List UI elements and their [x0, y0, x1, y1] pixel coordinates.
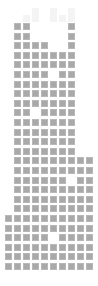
grid-tile [32, 177, 39, 184]
grid-tile [50, 253, 57, 260]
faint-tile [50, 8, 57, 15]
grid-tile [41, 157, 48, 164]
grid-tile [41, 225, 48, 232]
grid-tile [32, 71, 39, 78]
faint-tile [68, 15, 75, 22]
grid-tile [14, 90, 21, 97]
grid-tile [32, 234, 39, 241]
grid-tile [14, 177, 21, 184]
grid-tile [68, 148, 75, 155]
grid-tile [50, 81, 57, 88]
grid-tile [77, 167, 84, 174]
grid-tile [50, 52, 57, 59]
grid-tile [14, 186, 21, 193]
grid-tile [59, 244, 66, 251]
grid-tile [41, 90, 48, 97]
grid-tile [23, 244, 30, 251]
grid-tile [50, 61, 57, 68]
grid-tile [77, 196, 84, 203]
grid-tile [41, 234, 48, 241]
grid-tile [32, 215, 39, 222]
grid-tile [32, 119, 39, 126]
grid-tile [32, 225, 39, 232]
grid-tile [50, 109, 57, 116]
grid-tile [59, 119, 66, 126]
grid-tile [68, 186, 75, 193]
grid-tile [59, 263, 66, 270]
grid-tile [14, 119, 21, 126]
grid-tile [50, 215, 57, 222]
grid-tile [23, 148, 30, 155]
grid-tile [86, 244, 93, 251]
grid-tile [14, 234, 21, 241]
grid-tile [77, 234, 84, 241]
grid-tile [32, 81, 39, 88]
grid-tile [14, 109, 21, 116]
grid-tile [86, 263, 93, 270]
faint-tile [32, 8, 39, 15]
faint-tile [59, 15, 66, 22]
grid-tile [14, 61, 21, 68]
grid-tile [23, 157, 30, 164]
grid-tile [68, 109, 75, 116]
grid-tile [68, 234, 75, 241]
grid-tile [86, 253, 93, 260]
grid-tile [59, 177, 66, 184]
grid-tile [5, 244, 12, 251]
grid-tile [68, 71, 75, 78]
grid-tile [14, 52, 21, 59]
grid-tile [68, 205, 75, 212]
grid-tile [50, 148, 57, 155]
grid-tile [14, 81, 21, 88]
grid-tile [32, 263, 39, 270]
grid-tile [59, 196, 66, 203]
grid-tile [50, 100, 57, 107]
grid-tile [59, 157, 66, 164]
grid-tile [14, 33, 21, 40]
grid-tile [32, 244, 39, 251]
grid-tile [23, 81, 30, 88]
grid-tile [77, 244, 84, 251]
grid-tile [32, 129, 39, 136]
grid-tile [23, 119, 30, 126]
grid-tile [41, 109, 48, 116]
grid-tile [59, 71, 66, 78]
grid-tile [68, 90, 75, 97]
grid-tile [86, 186, 93, 193]
grid-tile [59, 100, 66, 107]
grid-tile [50, 167, 57, 174]
grid-tile [23, 177, 30, 184]
grid-tile [77, 225, 84, 232]
grid-tile [41, 253, 48, 260]
grid-tile [32, 90, 39, 97]
faint-tile [32, 15, 39, 22]
grid-tile [23, 253, 30, 260]
grid-tile [77, 253, 84, 260]
tile-grid [0, 0, 98, 286]
grid-tile [50, 263, 57, 270]
grid-tile [50, 157, 57, 164]
grid-tile [41, 100, 48, 107]
grid-tile [14, 253, 21, 260]
grid-tile [50, 90, 57, 97]
grid-tile [14, 205, 21, 212]
grid-tile [59, 61, 66, 68]
grid-tile [68, 119, 75, 126]
grid-tile [23, 186, 30, 193]
grid-tile [32, 138, 39, 145]
grid-tile [77, 263, 84, 270]
grid-tile [68, 129, 75, 136]
grid-tile [23, 167, 30, 174]
faint-tile [23, 15, 30, 22]
grid-tile [32, 205, 39, 212]
grid-tile [41, 138, 48, 145]
grid-tile [23, 138, 30, 145]
grid-tile [68, 157, 75, 164]
grid-tile [59, 90, 66, 97]
grid-tile [68, 167, 75, 174]
grid-tile [23, 234, 30, 241]
grid-tile [41, 71, 48, 78]
grid-tile [41, 196, 48, 203]
grid-tile [68, 225, 75, 232]
grid-tile [50, 129, 57, 136]
